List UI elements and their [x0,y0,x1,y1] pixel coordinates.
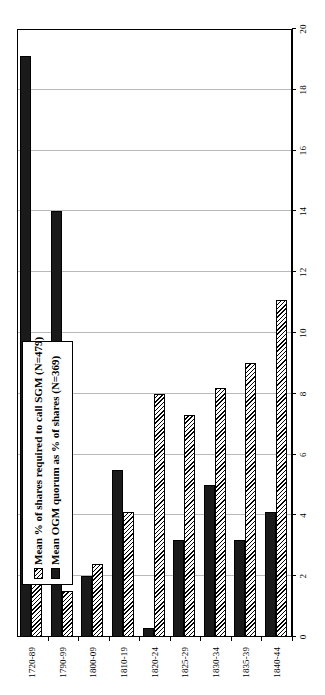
value-axis-tick-label: 12 [298,255,308,289]
bar-sgm-1810-19 [123,512,134,637]
bar-sgm-1835-39 [245,363,256,637]
category-label-1800-09: 1800-09 [88,643,98,695]
category-label-1810-19: 1810-19 [119,643,129,695]
value-axis-tick [292,89,296,90]
value-axis-tick-label: 0 [298,620,308,654]
value-axis-tick-label: 20 [298,12,308,46]
category-axis-tick [200,637,201,641]
gridline [18,89,291,90]
bar-sgm-1840-44 [276,300,287,637]
value-axis-tick-label: 6 [298,438,308,472]
category-label-1825-29: 1825-29 [180,643,190,695]
value-axis-tick [292,271,296,272]
bar-sgm-1830-34 [215,388,226,637]
chart-legend: Mean % of shares required to call SGM (N… [22,341,73,585]
category-label-1720-89: 1720-89 [27,643,37,695]
bar-ogm-1800-09 [81,576,92,637]
value-axis-tick-label: 8 [298,377,308,411]
value-axis-tick [292,28,296,29]
bar-ogm-1825-29 [173,540,184,637]
rotated-figure-wrapper: 02468101214161820 1720-891790-991800-091… [0,0,325,695]
category-label-1830-34: 1830-34 [211,643,221,695]
value-axis-tick [292,575,296,576]
category-axis-tick [261,637,262,641]
bar-ogm-1840-44 [265,512,276,637]
legend-label-ogm: Mean OGM quorum as % of shares (N=369) [49,356,61,565]
value-axis-tick [292,393,296,394]
bar-sgm-1825-29 [184,415,195,637]
bar-ogm-1820-24 [143,628,154,637]
bar-sgm-1790-99 [62,591,73,637]
value-axis-tick-label: 10 [298,316,308,350]
bar-sgm-1820-24 [154,394,165,637]
legend-swatch-hatched-icon [34,568,43,579]
category-label-1835-39: 1835-39 [241,643,251,695]
value-axis-tick [292,210,296,211]
value-axis-tick [292,454,296,455]
category-axis-tick [109,637,110,641]
value-axis-tick-label: 18 [298,73,308,107]
value-axis-tick-label: 16 [298,134,308,168]
bar-ogm-1810-19 [112,470,123,637]
category-label-1820-24: 1820-24 [150,643,160,695]
category-label-1840-44: 1840-44 [272,643,282,695]
gridline [18,150,291,151]
category-axis-tick [231,637,232,641]
bar-ogm-1830-34 [204,485,215,637]
value-axis-tick [292,514,296,515]
category-axis-tick [139,637,140,641]
bar-sgm-1800-09 [92,564,103,637]
value-axis-tick-label: 4 [298,498,308,532]
category-axis-tick [292,637,293,641]
value-axis-tick [292,332,296,333]
category-label-1790-99: 1790-99 [58,643,68,695]
value-axis-tick [292,150,296,151]
legend-swatch-solid-icon [51,568,60,579]
bar-chart-figure: 02468101214161820 1720-891790-991800-091… [0,0,325,695]
bar-ogm-1835-39 [234,540,245,637]
value-axis-tick-label: 2 [298,559,308,593]
legend-label-sgm: Mean % of shares required to call SGM (N… [32,337,44,565]
legend-item-ogm: Mean OGM quorum as % of shares (N=369) [49,348,61,579]
value-axis-line [292,29,293,637]
category-axis-tick [170,637,171,641]
category-axis-tick [78,637,79,641]
value-axis-tick-label: 14 [298,194,308,228]
category-axis-tick [48,637,49,641]
legend-item-sgm: Mean % of shares required to call SGM (N… [32,348,44,579]
